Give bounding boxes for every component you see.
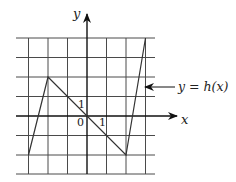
y-tick-label-1: 1 <box>78 98 85 111</box>
x-axis-label: x <box>181 112 189 127</box>
graph-canvas: y x 0 1 1 y = h(x) <box>0 0 236 182</box>
y-axis-label: y <box>72 6 81 21</box>
x-tick-label-1: 1 <box>99 116 106 129</box>
function-graph: y x 0 1 1 y = h(x) <box>0 0 236 182</box>
origin-label: 0 <box>77 116 84 129</box>
function-annotation: y = h(x) <box>177 79 228 94</box>
